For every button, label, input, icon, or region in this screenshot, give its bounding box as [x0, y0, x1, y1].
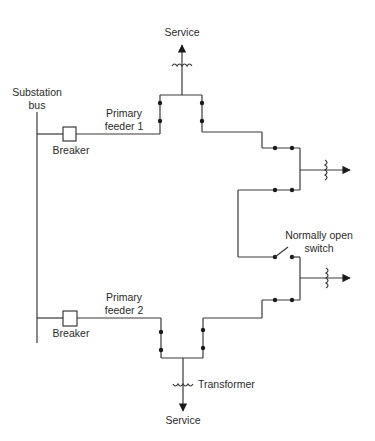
- transformer-label: Transformer: [198, 378, 255, 391]
- service-tap-top: [172, 45, 192, 95]
- breaker-1-box: [63, 127, 76, 141]
- feeder-1-label-line1: Primary: [100, 107, 148, 120]
- distribution-loop-diagram: Substation bus Breaker Breaker Primary f…: [0, 0, 375, 441]
- breaker-2-box: [63, 311, 77, 326]
- nos-label-line1: Normally open: [282, 229, 356, 242]
- load-tap-2: [300, 268, 350, 288]
- feeder-2-label: Primary feeder 2: [100, 291, 148, 317]
- nos-label-line2: switch: [282, 242, 356, 255]
- service-top-label: Service: [160, 26, 204, 39]
- service-bottom-label: Service: [161, 414, 205, 427]
- diagram-svg: [0, 0, 375, 441]
- substation-bus-label-line2: bus: [8, 99, 66, 112]
- feeder-1-label-line2: feeder 1: [100, 120, 148, 133]
- normally-open-switch-label: Normally open switch: [282, 229, 356, 255]
- feeder-1: [37, 95, 300, 257]
- feeder-2-label-line1: Primary: [100, 291, 148, 304]
- service-tap-bottom: [173, 358, 193, 411]
- substation-bus-label: Substation bus: [8, 86, 66, 112]
- substation-bus-label-line1: Substation: [8, 86, 66, 99]
- load-tap-1: [300, 160, 350, 180]
- feeder-2-label-line2: feeder 2: [100, 304, 148, 317]
- breaker-2-label: Breaker: [50, 327, 92, 340]
- feeder-1-label: Primary feeder 1: [100, 107, 148, 133]
- breaker-1-label: Breaker: [50, 144, 92, 157]
